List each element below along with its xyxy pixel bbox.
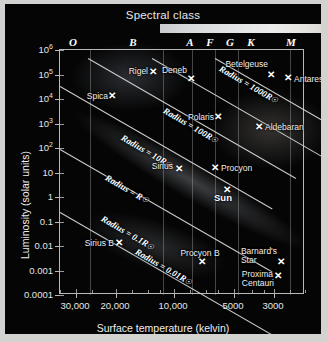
star-marker-sirius-b: ✕	[115, 238, 123, 248]
spectral-class-M: M	[286, 36, 296, 48]
x-tick-minor	[190, 290, 191, 293]
star-marker-proxima-centauri: ✕	[274, 271, 282, 281]
radius-label-R: Radius = R☉	[104, 173, 151, 206]
x-tick-minor	[160, 290, 161, 293]
y-tick-inner	[60, 222, 64, 223]
class-divider	[290, 50, 291, 295]
x-tick-minor	[290, 290, 291, 293]
y-axis-title: Luminosity (solar units)	[19, 151, 31, 259]
star-marker-rigel: ✕	[149, 67, 157, 77]
x-tick-minor	[264, 290, 265, 293]
y-tick-inner	[60, 148, 64, 149]
star-label-spica: Spica	[87, 92, 108, 101]
y-tick-inner	[60, 173, 64, 174]
x-tick	[274, 293, 275, 298]
x-tick-minor	[60, 290, 61, 293]
spectral-class-B: B	[129, 36, 136, 48]
x-tick-minor	[206, 290, 207, 293]
x-tick	[76, 293, 77, 298]
y-tick-label: 103	[39, 116, 53, 128]
star-marker-spica: ✕	[108, 91, 116, 101]
star-label-sirius: Sirius	[152, 162, 173, 171]
x-tick-inner	[76, 289, 77, 293]
x-tick-minor	[252, 290, 253, 293]
star-marker-procyon: ✕	[211, 163, 219, 173]
y-tick-inner	[60, 75, 64, 76]
plot-area: Radius = 1000R☉Radius = 100R☉Radius = 10…	[59, 49, 304, 294]
star-label-antares: Antares	[294, 75, 321, 84]
y-tick-label: 1	[48, 191, 53, 202]
x-tick	[116, 293, 117, 298]
y-tick-label: 106	[39, 43, 53, 55]
x-tick-label: 5000	[222, 300, 243, 311]
x-tick-minor	[305, 290, 306, 293]
figure-canvas: Spectral class OBAFGKM Radius = 1000R☉Ra…	[5, 4, 321, 334]
x-tick-label: 10,000	[158, 300, 187, 311]
x-tick-label: 3000	[262, 300, 283, 311]
star-label-deneb: Deneb	[162, 66, 187, 75]
star-marker-polaris: ✕	[214, 112, 222, 122]
spectral-class-K: K	[247, 36, 254, 48]
x-tick-minor	[92, 290, 93, 293]
star-label-betelgeuse: Betelgeuse	[225, 60, 268, 69]
y-tick-label: 0.01	[35, 240, 54, 251]
y-tick-label: 0.1	[40, 215, 53, 226]
star-label-polaris: Polaris	[188, 113, 214, 122]
star-label-aldebaran: Aldebaran	[265, 123, 304, 132]
y-tick-inner	[60, 197, 64, 198]
x-tick-minor	[218, 290, 219, 293]
x-tick-inner	[274, 289, 275, 293]
star-marker-sirius: ✕	[175, 164, 183, 174]
spectral-gradient-bar	[160, 24, 321, 33]
star-marker-antares: ✕	[284, 73, 292, 83]
x-tick	[234, 293, 235, 298]
class-divider	[163, 50, 164, 295]
x-tick-minor	[148, 290, 149, 293]
y-tick-inner	[60, 124, 64, 125]
y-tick-inner	[60, 271, 64, 272]
spectral-class-O: O	[69, 36, 77, 48]
spectral-gradient	[160, 24, 321, 33]
x-tick-label: 20,000	[100, 300, 129, 311]
class-divider	[192, 50, 193, 295]
star-marker-procyon-b: ✕	[198, 257, 206, 267]
star-marker-aldebaran: ✕	[255, 122, 263, 132]
spectral-class-F: F	[206, 36, 213, 48]
star-label-procyon-b: Procyon B	[180, 249, 219, 258]
y-tick-label: 104	[39, 92, 53, 104]
spectral-class-A: A	[186, 36, 193, 48]
spectral-class-G: G	[226, 36, 234, 48]
x-tick-inner	[174, 289, 175, 293]
hr-diagram-figure: Spectral class OBAFGKM Radius = 1000R☉Ra…	[0, 0, 328, 342]
star-label-rigel: Rigel	[129, 67, 148, 76]
class-divider	[90, 50, 91, 295]
x-axis-title: Surface temperature (kelvin)	[5, 322, 321, 334]
y-tick-inner	[60, 295, 64, 296]
star-label-sirius-b: Sirius B	[85, 239, 114, 248]
y-tick-inner	[60, 50, 64, 51]
y-tick-inner	[60, 99, 64, 100]
y-tick-inner	[60, 246, 64, 247]
star-label-barnard-s-star: Barnard'sStar	[241, 247, 277, 265]
x-tick-inner	[116, 289, 117, 293]
star-label-procyon: Procyon	[221, 164, 252, 173]
y-tick-label: 102	[39, 141, 53, 153]
spectral-class-title: Spectral class	[5, 9, 321, 21]
y-tick-label: 10	[42, 166, 53, 177]
x-tick-inner	[234, 289, 235, 293]
star-label-proxima-centauri: ProximaCentauri	[242, 270, 274, 288]
y-tick-label: 0.0001	[24, 289, 53, 300]
y-tick-label: 105	[39, 67, 53, 79]
star-marker-deneb: ✕	[187, 74, 195, 84]
star-marker-barnard-s-star: ✕	[277, 257, 285, 267]
x-tick-label: 30,000	[60, 300, 89, 311]
star-marker-betelgeuse: ✕	[267, 70, 275, 80]
x-tick-minor	[132, 290, 133, 293]
y-tick-label: 0.001	[29, 264, 53, 275]
star-label-sun: Sun	[214, 193, 232, 203]
x-tick	[174, 293, 175, 298]
